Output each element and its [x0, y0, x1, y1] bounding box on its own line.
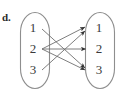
arrow-3-to-1	[42, 31, 85, 70]
arrow-group	[42, 27, 86, 70]
codomain-element-3: 3	[96, 62, 103, 77]
arrow-2-to-1	[42, 27, 85, 49]
domain-element-2: 2	[30, 41, 37, 56]
domain-element-1: 1	[30, 20, 37, 35]
domain-element-3: 3	[30, 62, 37, 77]
mapping-diagram-figure: d. 1 2 3 1 2 3	[0, 0, 117, 99]
codomain-element-1: 1	[96, 20, 103, 35]
codomain-element-2: 2	[96, 41, 103, 56]
diagram-canvas: 1 2 3 1 2 3	[0, 0, 117, 99]
arrow-1-to-3	[42, 29, 85, 68]
arrow-2-to-3	[42, 49, 85, 70]
